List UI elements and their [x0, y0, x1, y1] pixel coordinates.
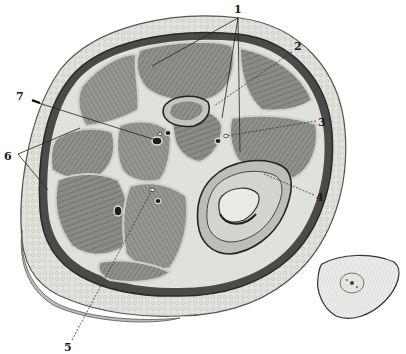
- label-1: 1: [234, 3, 242, 16]
- muscle-anterior-upper: [137, 42, 234, 101]
- label-6: 6: [4, 150, 12, 163]
- vessel-7b: [165, 131, 171, 136]
- vessel-5b: [155, 199, 161, 204]
- vessel-3a: [215, 138, 221, 143]
- anatomical-cross-section-figure: 1 2 3 4 5 6 7: [0, 0, 406, 354]
- muscle-posterior-center: [123, 183, 187, 269]
- small-cross-section-inset: [318, 255, 399, 318]
- muscle-compartment: [47, 40, 324, 288]
- vessel-7c: [158, 133, 162, 136]
- label-7: 7: [16, 90, 24, 103]
- vessel-posterior: [114, 206, 122, 216]
- label-5: 5: [64, 341, 72, 354]
- label-2: 2: [294, 40, 302, 53]
- vessel-7a: [152, 137, 162, 145]
- tendon-oval: [163, 96, 209, 126]
- label-4: 4: [316, 191, 324, 204]
- label-3: 3: [318, 116, 326, 129]
